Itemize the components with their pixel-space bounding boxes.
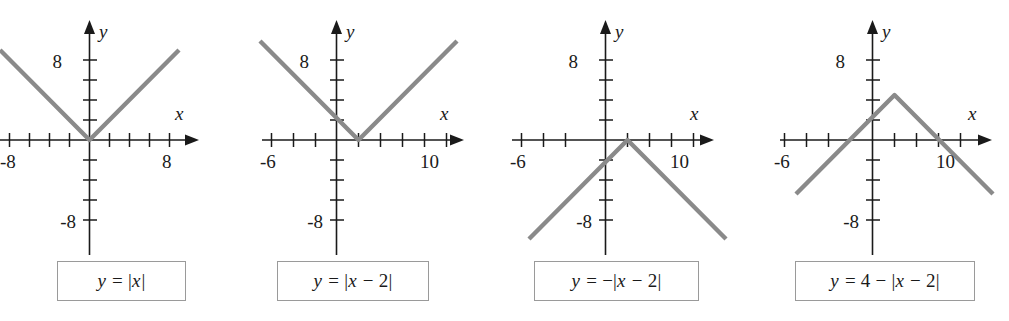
x-axis-name-1: x (174, 103, 184, 124)
y-tick-label-neg8-4: -8 (843, 211, 859, 232)
graph-svg-1: x y -8 8 8 -8 (0, 0, 252, 255)
equation-text-2: y=|x−2| (314, 270, 393, 292)
curve-neg-abs-x-minus-2 (529, 140, 726, 239)
x-axis-3 (512, 135, 714, 146)
x-tick-label-neg6-4: -6 (774, 151, 790, 172)
graph-svg-2: x y -6 10 8 -8 (252, 0, 504, 255)
y-tick-label-8-3: 8 (569, 51, 579, 72)
equation-box-2: y=|x−2| (277, 261, 429, 301)
x-axis-name-3: x (689, 103, 699, 124)
y-axis-name-3: y (613, 21, 624, 42)
y-tick-label-8-1: 8 (53, 51, 63, 72)
graph-svg-3: x y -6 10 8 -8 (504, 0, 756, 255)
y-tick-label-neg8-1: -8 (60, 211, 76, 232)
x-axis-name-2: x (439, 103, 449, 124)
x-tick-label-10-3: 10 (670, 151, 689, 172)
y-tick-label-8-2: 8 (300, 51, 310, 72)
y-tick-label-neg8-3: -8 (576, 211, 592, 232)
equation-text-1: y=|x| (97, 270, 145, 292)
y-axis-name-1: y (97, 21, 108, 42)
x-tick-label-neg6-3: -6 (510, 151, 526, 172)
curve-abs-x-minus-2 (260, 41, 457, 140)
x-tick-label-10-4: 10 (936, 151, 955, 172)
graph-svg-4: x y -6 10 8 -8 (756, 0, 1009, 255)
equation-box-3: y=−|x−2| (534, 261, 699, 301)
y-tick-label-neg8-2: -8 (307, 211, 323, 232)
x-tick-label-8-1: 8 (162, 151, 172, 172)
y-axis-name-4: y (880, 21, 891, 42)
x-tick-label-neg6-2: -6 (260, 151, 276, 172)
equation-box-1: y=|x| (57, 261, 186, 301)
y-axis-name-2: y (344, 21, 355, 42)
equation-text-3: y=−|x−2| (572, 270, 662, 292)
absolute-value-graphs-figure: x y -8 8 8 -8 (0, 0, 1009, 321)
x-tick-label-neg8-1: -8 (0, 151, 16, 172)
x-axis-name-4: x (967, 103, 977, 124)
y-tick-label-8-4: 8 (836, 51, 846, 72)
equation-box-4: y=4−|x−2| (795, 261, 975, 301)
x-tick-label-10-2: 10 (420, 151, 439, 172)
equation-text-4: y=4−|x−2| (830, 270, 939, 292)
